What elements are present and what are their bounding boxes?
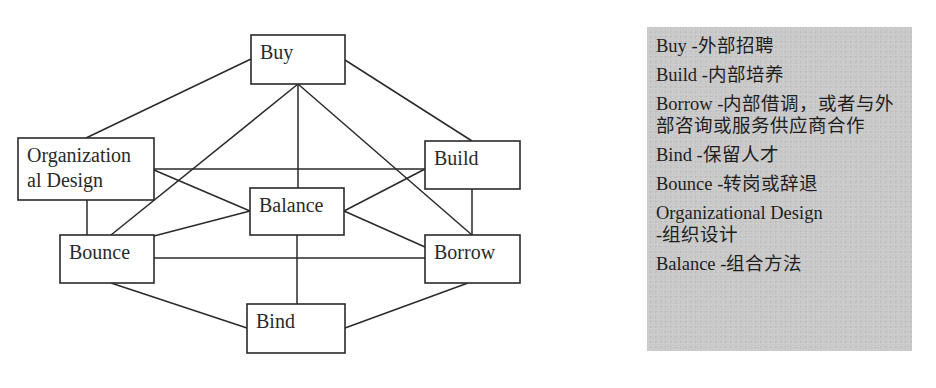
legend-term: Balance [656, 254, 716, 274]
edge-organizational-design-to-balance [154, 170, 250, 211]
legend-term: Bind [656, 145, 692, 165]
node-bind: Bind [247, 304, 345, 353]
legend-item-buy: Buy -外部招聘 [656, 35, 906, 57]
node-build: Build [425, 141, 520, 189]
legend-term: Borrow [656, 94, 713, 114]
legend-meaning: 内部培养 [708, 65, 784, 85]
legend-term: Bounce [656, 174, 713, 194]
edge-bounce-to-bind [111, 283, 247, 328]
legend-separator: - [716, 254, 727, 274]
node-buy: Buy [251, 35, 345, 84]
node-label: Organization [27, 144, 131, 167]
edge-balance-to-borrow [344, 211, 425, 247]
node-label: Borrow [434, 241, 496, 263]
legend-separator: - [697, 65, 708, 85]
legend-item-build: Build -内部培养 [656, 64, 906, 86]
legend-term: Organizational Design [656, 203, 823, 223]
legend-item-bounce: Bounce -转岗或辞退 [656, 173, 906, 195]
legend-term: Buy [656, 36, 687, 56]
7b-talent-strategy-diagram: BuyOrganizational DesignBuildBalanceBoun… [0, 0, 620, 388]
edge-build-to-balance [344, 169, 425, 211]
legend-meaning: 保留人才 [703, 145, 779, 165]
node-label: Bind [256, 310, 295, 332]
node-bounce: Bounce [60, 235, 154, 283]
node-organizational-design: Organizational Design [18, 138, 154, 200]
edge-balance-to-bounce [154, 211, 250, 236]
legend-separator: - [692, 145, 703, 165]
legend-item-balance: Balance -组合方法 [656, 253, 906, 275]
node-balance: Balance [250, 188, 344, 235]
node-label: Build [434, 147, 478, 169]
legend-meaning: 组织设计 [662, 225, 738, 245]
node-label: Buy [260, 41, 293, 64]
edge-buy-to-organizational-design [86, 59, 251, 138]
legend-item-bind: Bind -保留人才 [656, 144, 906, 166]
node-label: al Design [27, 169, 103, 192]
legend-meaning: 转岗或辞退 [723, 174, 818, 194]
nodes: BuyOrganizational DesignBuildBalanceBoun… [18, 35, 520, 353]
legend-term: Build [656, 65, 697, 85]
node-borrow: Borrow [425, 235, 520, 283]
node-label: Bounce [69, 241, 130, 263]
legend-meaning: 组合方法 [726, 254, 802, 274]
edge-buy-to-build [345, 60, 472, 141]
legend-meaning: 外部招聘 [698, 36, 774, 56]
legend-panel: Buy -外部招聘 Build -内部培养 Borrow -内部借调，或者与外部… [647, 27, 912, 351]
node-label: Balance [259, 194, 324, 216]
legend-separator: - [713, 174, 724, 194]
legend-item-organizational-design: Organizational Design -组织设计 [656, 202, 906, 246]
legend-item-borrow: Borrow -内部借调，或者与外部咨询或服务供应商合作 [656, 93, 906, 137]
legend-separator: - [687, 36, 698, 56]
legend-separator: - [713, 94, 724, 114]
edge-borrow-to-bind [345, 283, 468, 328]
